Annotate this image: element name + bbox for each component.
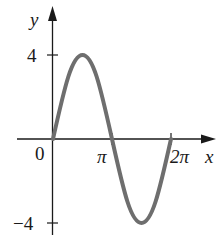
y-tick-label-4: 4 (27, 45, 37, 66)
x-tick-label-pi: π (97, 146, 107, 167)
x-tick-label-2pi: 2π (170, 146, 190, 167)
y-axis-label: y (28, 9, 39, 30)
y-tick-label-neg4: −4 (13, 213, 34, 234)
sine-chart: y 4 −4 0 π 2π x (0, 0, 217, 235)
y-axis-arrow-icon (48, 6, 57, 21)
x-axis-label: x (204, 146, 214, 167)
origin-label: 0 (35, 143, 45, 164)
x-axis-arrow-icon (201, 135, 216, 144)
